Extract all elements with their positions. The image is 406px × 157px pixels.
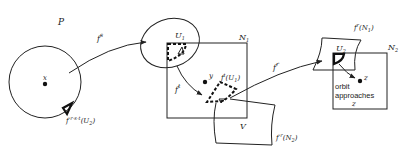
label-n1: N1 (238, 33, 249, 43)
label-u2: U2 (336, 44, 346, 54)
orbit-text-line3: z (351, 100, 356, 108)
arrow-f-t (177, 66, 202, 95)
label-z: z (363, 74, 368, 82)
point-y (203, 80, 207, 84)
label-v: V (240, 122, 247, 131)
orbit-text-line2: approaches (335, 91, 374, 100)
label-fr-n1: fr(N1) (353, 22, 374, 33)
orbit-text-line1: orbit (335, 82, 351, 91)
label-y: y (208, 72, 214, 80)
label-f-s: fs (96, 31, 103, 43)
arrow-orbit (339, 64, 355, 78)
label-x: x (43, 74, 47, 82)
label-u1: U1 (175, 31, 185, 41)
label-n2: N2 (387, 43, 398, 53)
label-f-t: ft (174, 82, 181, 94)
arrow-f-s (69, 42, 146, 73)
u2-sector (334, 54, 344, 64)
circle-p (9, 46, 81, 118)
diagram-canvas: P x f-r-s-t(U2) fs U1 N1 y ft ft(U1) V f… (0, 0, 406, 157)
point-z (358, 79, 362, 83)
region-v-top-edge (230, 99, 275, 105)
label-preimage: f-r-s-t(U2) (65, 115, 95, 126)
label-f-minus-r-n2: f-r(N2) (275, 132, 298, 143)
label-ftu1: ft(U1) (220, 72, 240, 83)
point-x (43, 82, 47, 86)
label-f-r: fr (272, 60, 280, 72)
label-p: P (57, 17, 65, 27)
